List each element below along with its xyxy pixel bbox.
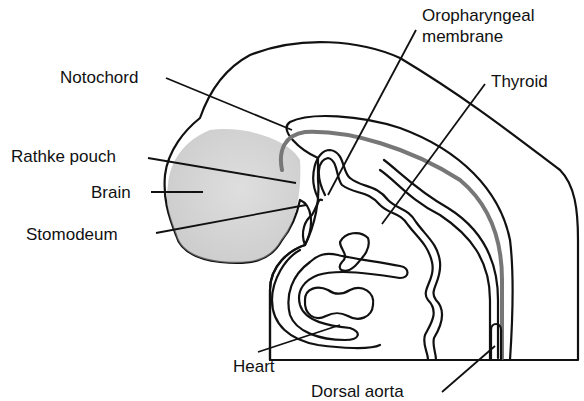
label-oropharyngeal-line1: Oropharyngeal: [422, 6, 534, 25]
leader-dorsal-aorta: [442, 346, 495, 392]
label-rathke-pouch: Rathke pouch: [11, 147, 116, 166]
label-stomodeum: Stomodeum: [26, 225, 118, 244]
label-notochord: Notochord: [60, 68, 138, 87]
dorsal-aorta: [491, 324, 501, 360]
label-heart: Heart: [233, 357, 275, 376]
label-oropharyngeal-line2: membrane: [422, 27, 503, 46]
label-dorsal-aorta: Dorsal aorta: [311, 382, 404, 401]
label-thyroid: Thyroid: [491, 72, 548, 91]
embryo-diagram: Notochord Rathke pouch Brain Stomodeum O…: [0, 0, 584, 401]
leader-notochord: [166, 78, 292, 130]
label-brain: Brain: [91, 183, 131, 202]
leader-oropharyngeal-membrane: [328, 30, 416, 195]
pharyngeal-region: [270, 116, 513, 360]
leader-thyroid: [382, 84, 485, 224]
stomodeum-bulge: [303, 200, 322, 245]
